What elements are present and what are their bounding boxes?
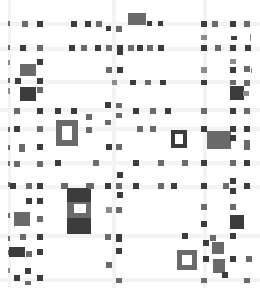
map-tile-dark[interactable] <box>230 188 236 194</box>
map-tile-mid[interactable] <box>37 216 43 222</box>
map-tile-dark[interactable] <box>133 160 139 166</box>
map-tile-mid[interactable] <box>8 45 10 50</box>
map-tile-dark[interactable] <box>230 215 244 229</box>
map-tile-light[interactable] <box>8 88 10 94</box>
building-center-right[interactable] <box>171 130 187 148</box>
map-tile-dark[interactable] <box>244 126 250 132</box>
map-tile-mid[interactable] <box>244 80 250 86</box>
map-tile-light[interactable] <box>201 67 207 73</box>
map-tile-mid[interactable] <box>8 161 10 166</box>
map-tile-mid[interactable] <box>8 145 10 150</box>
map-tile-dark[interactable] <box>158 45 164 51</box>
map-tile-mid[interactable] <box>128 13 146 25</box>
map-tile-mid[interactable] <box>210 235 216 241</box>
map-tile-dark[interactable] <box>230 178 236 184</box>
map-tile-mid[interactable] <box>105 120 111 125</box>
map-tile-mid[interactable] <box>201 204 207 210</box>
map-tile-dark[interactable] <box>37 78 43 84</box>
map-tile-dark[interactable] <box>25 268 31 274</box>
map-tile-dark[interactable] <box>71 21 77 27</box>
map-tile-dark[interactable] <box>230 256 236 262</box>
map-tile-light[interactable] <box>8 60 10 65</box>
game-map[interactable] <box>0 0 260 288</box>
map-tile-mid[interactable] <box>212 242 224 254</box>
map-tile-mid[interactable] <box>86 127 92 133</box>
map-tile-dark[interactable] <box>37 183 43 189</box>
map-tile-dark[interactable] <box>37 21 43 27</box>
map-tile-dark[interactable] <box>37 108 43 114</box>
map-tile-dark[interactable] <box>160 80 166 85</box>
map-tile-dark[interactable] <box>231 36 237 40</box>
map-tile-mid[interactable] <box>106 262 112 268</box>
map-tile-dark[interactable] <box>117 192 123 198</box>
map-tile-dark[interactable] <box>245 45 251 51</box>
map-tile-mid[interactable] <box>37 161 43 167</box>
map-tile-light[interactable] <box>243 91 249 96</box>
map-tile-mid[interactable] <box>37 45 43 51</box>
map-tile-mid[interactable] <box>207 131 231 149</box>
map-tile-light[interactable] <box>106 207 112 213</box>
map-tile-mid[interactable] <box>244 108 250 114</box>
map-tile-dark[interactable] <box>116 234 122 242</box>
map-tile-mid[interactable] <box>26 183 32 189</box>
map-tile-mid[interactable] <box>158 183 164 189</box>
map-tile-dark[interactable] <box>222 272 228 278</box>
map-tile-dark[interactable] <box>133 108 139 114</box>
map-tile-mid[interactable] <box>244 278 250 283</box>
map-tile-dark[interactable] <box>244 183 250 189</box>
map-tile-dark[interactable] <box>117 67 123 73</box>
map-tile-dark[interactable] <box>26 198 32 204</box>
map-tile-mid[interactable] <box>105 234 111 240</box>
map-tile-mid[interactable] <box>182 160 188 166</box>
map-tile-mid[interactable] <box>106 67 112 73</box>
map-tile-mid[interactable] <box>128 45 134 51</box>
map-tile-mid[interactable] <box>201 108 207 114</box>
map-tile-mid[interactable] <box>212 21 218 27</box>
map-tile-mid[interactable] <box>213 259 225 273</box>
map-tile-dark[interactable] <box>69 45 75 51</box>
map-tile-dark[interactable] <box>230 67 236 73</box>
map-tile-dark[interactable] <box>106 144 112 150</box>
map-tile-dark[interactable] <box>10 183 16 189</box>
map-tile-mid[interactable] <box>14 161 20 167</box>
building-south-right[interactable] <box>177 250 197 270</box>
map-tile-dark[interactable] <box>14 126 20 132</box>
map-tile-dark[interactable] <box>9 247 25 257</box>
map-tile-dark[interactable] <box>201 80 207 85</box>
map-tile-dark[interactable] <box>230 86 244 100</box>
map-tile-mid[interactable] <box>26 251 32 257</box>
map-tile-mid[interactable] <box>37 126 43 132</box>
map-tile-mid[interactable] <box>150 108 156 114</box>
map-tile-mid[interactable] <box>244 66 250 72</box>
map-tile-mid[interactable] <box>8 127 10 132</box>
map-tile-dark[interactable] <box>244 160 250 166</box>
map-tile-dark[interactable] <box>171 183 177 189</box>
map-tile-mid[interactable] <box>230 160 236 166</box>
map-tile-mid[interactable] <box>8 236 10 241</box>
map-tile-mid[interactable] <box>37 87 43 93</box>
map-tile-dark[interactable] <box>230 45 236 51</box>
map-tile-dark[interactable] <box>106 26 111 31</box>
map-tile-mid[interactable] <box>116 207 122 213</box>
map-tile-dark[interactable] <box>203 256 209 262</box>
map-tile-mid[interactable] <box>106 45 112 51</box>
map-tile-dark[interactable] <box>116 248 122 254</box>
map-tile-dark[interactable] <box>201 183 207 189</box>
map-tile-mid[interactable] <box>145 80 151 85</box>
map-tile-dark[interactable] <box>37 275 43 281</box>
map-tile-dark[interactable] <box>137 45 143 51</box>
map-tile-mid[interactable] <box>158 160 164 166</box>
map-tile-light[interactable] <box>230 59 236 64</box>
map-tile-mid[interactable] <box>93 160 99 166</box>
map-tile-mid[interactable] <box>25 281 31 285</box>
map-tile-dark[interactable] <box>20 45 26 51</box>
map-tile-light[interactable] <box>8 268 10 273</box>
map-tile-mid[interactable] <box>116 278 122 283</box>
map-tile-dark[interactable] <box>201 45 207 51</box>
map-tile-dark[interactable] <box>85 21 91 27</box>
map-tile-mid[interactable] <box>116 103 122 108</box>
map-tile-mid[interactable] <box>20 64 36 76</box>
map-tile-dark[interactable] <box>165 108 171 114</box>
map-tile-dark[interactable] <box>230 135 236 141</box>
map-tile-mid[interactable] <box>96 21 102 27</box>
